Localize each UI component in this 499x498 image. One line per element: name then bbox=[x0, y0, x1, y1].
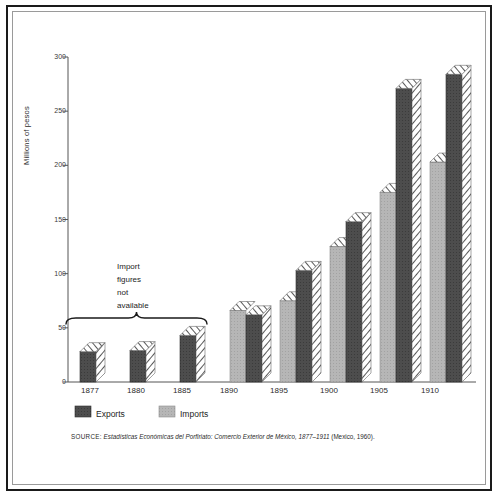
legend-swatches bbox=[75, 406, 175, 417]
source-suffix: (Mexico, 1960). bbox=[331, 433, 374, 440]
annotation-brace bbox=[66, 312, 207, 324]
bars-group bbox=[80, 65, 471, 382]
source-prefix: SOURCE: bbox=[71, 433, 102, 440]
source-note: SOURCE: Estadísticas Económicas del Porf… bbox=[71, 433, 375, 440]
chart-canvas bbox=[0, 0, 499, 498]
source-title: Estadísticas Económicas del Porfiriato: … bbox=[104, 433, 330, 440]
bar-chart: Millions of pesos 300 250 200 150 100 50… bbox=[0, 0, 499, 498]
